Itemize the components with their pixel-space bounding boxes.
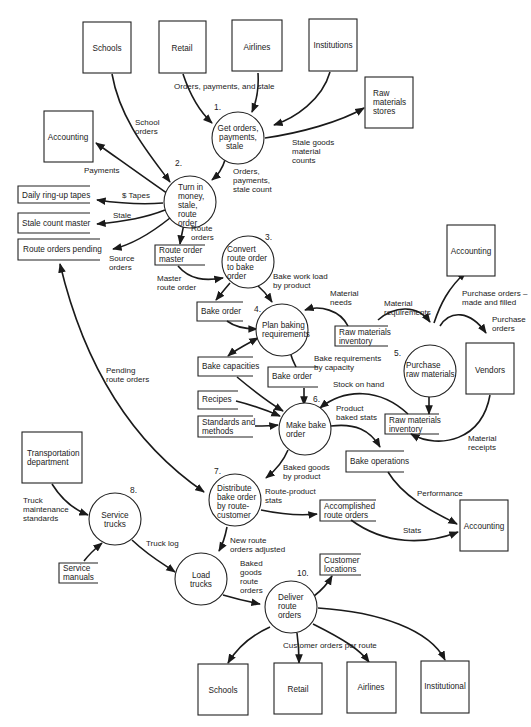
data-flow-diagram: Schools Retail Airlines Institutions Raw… bbox=[0, 0, 531, 727]
svg-text:route: route bbox=[240, 577, 259, 586]
svg-text:Make bake: Make bake bbox=[286, 421, 326, 430]
label-baked-goods-by-product: Baked goods bbox=[283, 463, 330, 472]
svg-text:Bake operations: Bake operations bbox=[350, 457, 409, 466]
flow-10-to-schools bbox=[228, 627, 270, 663]
label-master-route-order: Master bbox=[157, 274, 182, 283]
svg-text:Get orders,: Get orders, bbox=[218, 124, 259, 133]
flow-6-to-bake-operations bbox=[331, 425, 380, 447]
svg-text:by route-: by route- bbox=[217, 502, 250, 511]
svg-text:baked stats: baked stats bbox=[336, 413, 377, 422]
flow-bake-order-to-4 bbox=[227, 321, 257, 329]
process-5-purchase-raw-materials: 5. Purchase raw materials bbox=[394, 345, 456, 397]
svg-text:master: master bbox=[159, 255, 184, 264]
svg-text:department: department bbox=[27, 458, 69, 467]
label-stale-goods: Stale goods bbox=[292, 138, 334, 147]
svg-text:material: material bbox=[292, 147, 321, 156]
svg-text:Vendors: Vendors bbox=[475, 366, 505, 375]
label-product-baked-stats: Product bbox=[336, 404, 364, 413]
svg-text:route: route bbox=[278, 602, 297, 611]
process-3-convert-route-order: 3. Convert route order to bake order bbox=[222, 232, 274, 288]
flow-10-to-customer-locations bbox=[314, 576, 332, 596]
svg-text:requirements: requirements bbox=[262, 330, 310, 339]
svg-text:Institutions: Institutions bbox=[313, 41, 352, 50]
store-recipes: Recipes bbox=[198, 391, 238, 409]
svg-text:counts: counts bbox=[292, 156, 316, 165]
svg-text:Load: Load bbox=[192, 571, 211, 580]
svg-text:stale,: stale, bbox=[178, 201, 198, 210]
svg-text:stores: stores bbox=[373, 107, 395, 116]
svg-text:5.: 5. bbox=[394, 348, 401, 358]
flow-4-to-bake-order-2 bbox=[291, 355, 296, 367]
label-material-requirements: Material bbox=[384, 299, 413, 308]
flow-recipes-to-6 bbox=[236, 401, 280, 416]
store-bake-capacities: Bake capacities bbox=[198, 357, 259, 376]
svg-text:Route orders pending: Route orders pending bbox=[23, 245, 102, 254]
label-truck-log: Truck log bbox=[146, 539, 179, 548]
process-4-plan-baking: 4. Plan baking requirements bbox=[254, 304, 310, 356]
entity-schools-top: Schools bbox=[83, 22, 131, 73]
store-stale-count-master: Stale count master bbox=[18, 213, 91, 233]
svg-text:Accomplished: Accomplished bbox=[324, 502, 375, 511]
svg-text:Bake capacities: Bake capacities bbox=[202, 362, 259, 371]
label-school-orders: School bbox=[135, 118, 160, 127]
svg-text:Purchase: Purchase bbox=[406, 361, 441, 370]
process-8-service-trucks: 8. Service trucks bbox=[89, 485, 141, 545]
svg-text:payments,: payments, bbox=[219, 133, 257, 142]
svg-text:Schools: Schools bbox=[92, 44, 121, 53]
svg-text:Retail: Retail bbox=[288, 685, 309, 694]
entity-accounting-left: Accounting bbox=[44, 111, 93, 162]
svg-text:customer: customer bbox=[217, 511, 251, 520]
process-10-deliver-route-orders: 10. Deliver route orders bbox=[265, 568, 317, 633]
svg-text:orders: orders bbox=[240, 586, 263, 595]
svg-text:Service: Service bbox=[101, 511, 129, 520]
svg-text:receipts: receipts bbox=[468, 443, 496, 452]
svg-text:route order: route order bbox=[157, 283, 196, 292]
svg-text:trucks: trucks bbox=[104, 520, 126, 529]
label-route-orders: Route bbox=[191, 224, 213, 233]
svg-text:requirements: requirements bbox=[384, 308, 431, 317]
store-bake-operations: Bake operations bbox=[346, 451, 409, 472]
svg-text:made and filled: made and filled bbox=[462, 298, 516, 307]
label-customer-orders-per-route: Customer orders per route bbox=[283, 641, 377, 650]
svg-text:Customer: Customer bbox=[324, 556, 360, 565]
svg-text:orders adjusted: orders adjusted bbox=[230, 545, 285, 554]
label-material-needs: Material bbox=[330, 289, 359, 298]
label-truck-maintenance: Truck bbox=[23, 496, 44, 505]
svg-text:Recipes: Recipes bbox=[202, 395, 232, 404]
svg-text:by product: by product bbox=[273, 281, 311, 290]
entity-schools-bottom: Schools bbox=[198, 664, 248, 715]
label-pending-route-orders: Pending bbox=[106, 366, 135, 375]
process-6-make-bake-order: 6. Make bake order bbox=[279, 394, 331, 455]
entity-accounting-right-bottom: Accounting bbox=[460, 500, 508, 551]
svg-text:stale: stale bbox=[226, 142, 244, 151]
store-customer-locations: Customer locations bbox=[320, 554, 361, 575]
label-tapes: $ Tapes bbox=[122, 191, 150, 200]
svg-text:Institutional: Institutional bbox=[424, 682, 466, 691]
flow-baked-goods-route-orders bbox=[223, 595, 260, 604]
svg-text:Bake order: Bake order bbox=[201, 307, 241, 316]
label-orders-payments-stale: Orders, payments, and stale bbox=[174, 82, 275, 91]
entity-airlines-top: Airlines bbox=[232, 20, 282, 71]
label-payments: Payments bbox=[84, 166, 120, 175]
process-2-turn-in-money: 2. Turn in money, stale, route order bbox=[164, 158, 216, 228]
label-bake-workload: Bake work load bbox=[273, 272, 328, 281]
svg-text:10.: 10. bbox=[297, 568, 309, 578]
flow-bake-workload bbox=[256, 284, 272, 302]
svg-text:Bake order: Bake order bbox=[272, 372, 312, 381]
svg-text:8.: 8. bbox=[130, 485, 137, 495]
entity-retail-top: Retail bbox=[159, 21, 206, 73]
entity-transportation-department: Transportation department bbox=[22, 432, 82, 483]
label-stale: Stale bbox=[113, 211, 132, 220]
svg-text:orders: orders bbox=[492, 324, 515, 333]
svg-text:3.: 3. bbox=[265, 232, 272, 242]
flow-orders-payments-stale-count bbox=[212, 160, 225, 180]
svg-text:Distribute: Distribute bbox=[217, 484, 252, 493]
flow-service-manuals bbox=[84, 543, 102, 561]
flow-institutions-to-1 bbox=[274, 72, 330, 125]
svg-text:6.: 6. bbox=[313, 394, 320, 404]
flow-4-bake-capacities bbox=[228, 338, 258, 356]
entity-vendors: Vendors bbox=[466, 343, 514, 394]
entity-institutional-bottom: Institutional bbox=[421, 661, 469, 713]
svg-text:order: order bbox=[227, 272, 246, 281]
svg-text:trucks: trucks bbox=[190, 580, 212, 589]
